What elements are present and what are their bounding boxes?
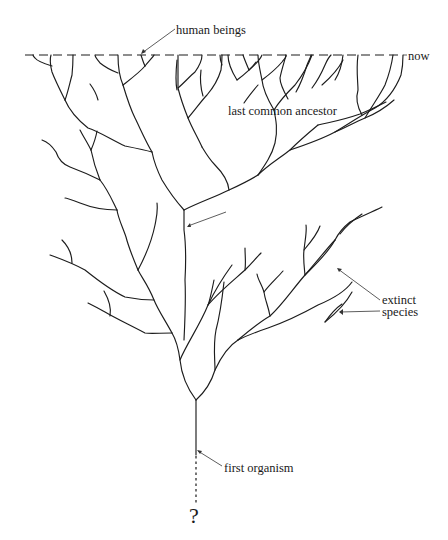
human-beings-arrowhead: [141, 49, 146, 54]
lca-arrowhead: [187, 223, 191, 227]
last-common-ancestor-label: last common ancestor: [228, 105, 337, 117]
species-label: species: [382, 306, 418, 318]
extinct-pointer-1: [338, 269, 380, 300]
human-beings-pointer: [142, 29, 175, 53]
extinct-arrowhead-2: [339, 309, 343, 315]
tree-branches: [33, 55, 403, 455]
extinct-pointer-2: [340, 311, 380, 312]
now-label: now: [408, 50, 430, 62]
first-organism-pointer: [198, 451, 222, 466]
human-beings-label: human beings: [176, 24, 246, 36]
annotation-pointers: [141, 29, 407, 466]
lca-pointer: [188, 212, 226, 226]
first-organism-label: first organism: [224, 462, 294, 474]
unknown-origin-mark: ?: [189, 505, 199, 527]
tree-diagram: [0, 0, 448, 540]
